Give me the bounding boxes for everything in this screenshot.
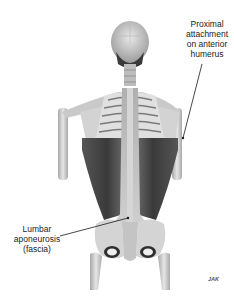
label-line: aponeurosis — [4, 234, 70, 244]
latissimus-left — [82, 138, 124, 220]
cervical-spine — [124, 64, 136, 86]
label-line: attachment — [178, 29, 234, 39]
artist-signature: JAK — [208, 276, 219, 282]
latissimus-right — [136, 138, 178, 220]
pelvis — [95, 219, 166, 261]
left-arm — [58, 108, 68, 180]
label-lumbar-aponeurosis: Lumbar aponeurosis (fascia) — [4, 224, 70, 254]
label-proximal-attachment: Proximal attachment on anterior humerus — [178, 19, 234, 59]
label-line: on anterior — [178, 39, 234, 49]
skull — [111, 21, 149, 68]
label-line: (fascia) — [4, 244, 70, 254]
label-line: Lumbar — [4, 224, 70, 234]
label-line: humerus — [178, 49, 234, 59]
leader-line-top — [183, 64, 202, 138]
label-line: Proximal — [178, 19, 234, 29]
